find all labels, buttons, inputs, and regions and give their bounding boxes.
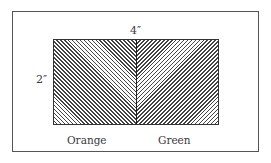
width-dimension-label: 4″ bbox=[130, 25, 141, 36]
green-label: Green bbox=[158, 135, 191, 146]
green-region bbox=[136, 40, 219, 124]
orange-region bbox=[54, 40, 136, 124]
height-dimension-label: 2″ bbox=[36, 74, 47, 85]
orange-label: Orange bbox=[67, 135, 107, 146]
rectangle bbox=[53, 39, 219, 125]
